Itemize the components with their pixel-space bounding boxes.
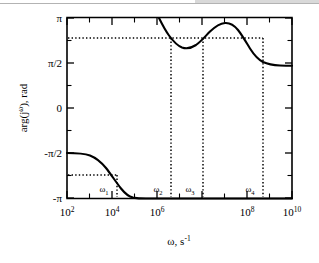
x-tick-labels: 102 104 106 108 1010 — [60, 205, 302, 218]
svg-text:ω1: ω1 — [99, 184, 108, 196]
svg-text:ω4: ω4 — [245, 184, 255, 196]
svg-text:ω, s-1: ω, s-1 — [167, 234, 191, 247]
x-tick-label-1e8: 108 — [240, 205, 255, 218]
svg-text:ω2: ω2 — [153, 184, 162, 196]
figure-container: π π/2 0 -π/2 -π 102 104 106 108 1010 ω, … — [0, 0, 319, 263]
y-tick-label-neg-pi: -π — [53, 192, 63, 204]
svg-text:arg(jω), rad: arg(jω), rad — [16, 83, 30, 132]
plot-frame — [67, 18, 292, 199]
y-tick-label-pi-half: π/2 — [48, 57, 62, 69]
annotation-omega2: ω2 — [153, 184, 162, 196]
annotation-omega1: ω1 — [99, 184, 108, 196]
curve-upper-branch — [159, 18, 292, 66]
annotation-omega3: ω3 — [185, 184, 194, 196]
x-tick-label-1e10: 1010 — [283, 205, 302, 218]
x-tick-label-1e2: 102 — [60, 205, 75, 218]
x-axis-title: ω, s-1 — [167, 234, 191, 247]
y-axis-minor-ticks — [67, 41, 292, 176]
y-tick-label-zero: 0 — [57, 102, 63, 114]
y-tick-label-pi: π — [56, 12, 62, 24]
phase-bode-plot: π π/2 0 -π/2 -π 102 104 106 108 1010 ω, … — [0, 0, 319, 263]
x-tick-label-1e6: 106 — [150, 205, 165, 218]
annotation-omega4: ω4 — [245, 184, 255, 196]
svg-text:ω3: ω3 — [185, 184, 194, 196]
y-tick-labels: π π/2 0 -π/2 -π — [44, 12, 62, 204]
y-tick-label-neg-pi-half: -π/2 — [44, 147, 62, 159]
y-axis-title: arg(jω), rad — [16, 83, 30, 132]
scan-artifact-line — [0, 3, 319, 4]
x-tick-label-1e4: 104 — [105, 205, 120, 218]
